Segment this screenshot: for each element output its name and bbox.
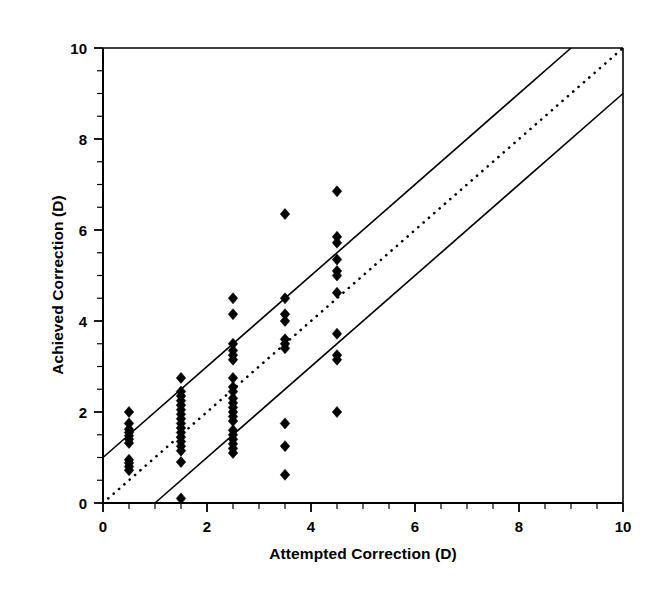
data-point-marker: [176, 457, 185, 468]
x-tick-label: 10: [615, 518, 632, 535]
data-point-marker: [124, 407, 133, 418]
data-point-marker: [280, 418, 289, 429]
plot-canvas: 02468100246810: [0, 0, 663, 595]
data-point-marker: [332, 287, 341, 298]
data-point-marker: [228, 293, 237, 304]
data-point-marker: [332, 186, 341, 197]
x-axis-label: Attempted Correction (D): [103, 545, 623, 563]
data-point-marker: [332, 407, 341, 418]
y-tick-label: 4: [79, 313, 88, 330]
x-tick-label: 6: [411, 518, 419, 535]
x-tick-label: 2: [203, 518, 211, 535]
y-tick-label: 2: [79, 404, 87, 421]
scatter-plot-figure: 02468100246810 Achieved Correction (D) A…: [0, 0, 663, 595]
lower-tolerance-line: [155, 94, 623, 504]
data-point-marker: [280, 469, 289, 480]
y-axis-label: Achieved Correction (D): [49, 135, 67, 435]
data-point-marker: [280, 209, 289, 220]
x-tick-label: 4: [307, 518, 316, 535]
data-point-marker: [280, 316, 289, 327]
data-point-marker: [332, 328, 341, 339]
y-tick-label: 8: [79, 131, 87, 148]
y-tick-label: 0: [79, 495, 87, 512]
data-point-marker: [228, 309, 237, 320]
y-tick-label: 6: [79, 222, 87, 239]
upper-tolerance-line: [103, 48, 571, 458]
x-tick-label: 0: [99, 518, 107, 535]
x-tick-label: 8: [515, 518, 523, 535]
data-point-marker: [280, 441, 289, 452]
y-tick-label: 10: [70, 40, 87, 57]
data-point-marker: [176, 372, 185, 383]
